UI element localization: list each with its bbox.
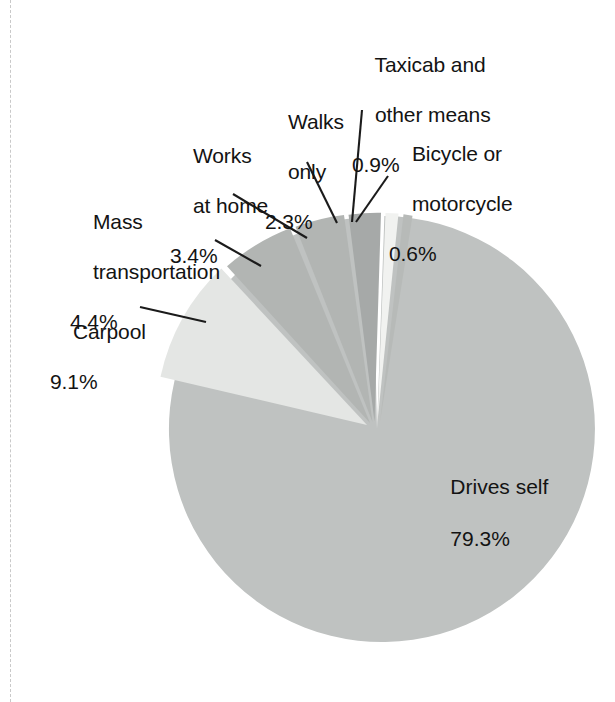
label-walks-value: 2.3% xyxy=(265,209,344,234)
pie-chart-figure: Taxicab and other means 0.9% Bicycle or … xyxy=(0,0,615,702)
label-mass-line1: Mass xyxy=(93,210,143,233)
label-carpool-value: 9.1% xyxy=(50,369,146,394)
label-walks-line1: Walks xyxy=(288,110,344,133)
label-drives-line1: Drives self xyxy=(450,475,548,498)
label-bicycle-motorcycle: Bicycle or motorcycle 0.6% xyxy=(389,116,512,316)
label-drives-value: 79.3% xyxy=(450,527,510,550)
label-carpool: Carpool 9.1% xyxy=(50,294,146,444)
label-works-line1: Works xyxy=(193,144,252,167)
label-mass-line2: transportation xyxy=(93,260,220,283)
label-bicycle-line1: Bicycle or xyxy=(412,142,502,165)
label-walks-line2: only xyxy=(288,160,326,183)
label-drives-self: Drives self 79.3% xyxy=(427,448,548,578)
label-walks-only: Walks only 2.3% xyxy=(265,84,344,284)
label-bicycle-value: 0.6% xyxy=(389,241,512,266)
label-taxicab-line1: Taxicab and xyxy=(375,53,486,76)
label-bicycle-line2: motorcycle xyxy=(412,192,513,215)
label-carpool-line1: Carpool xyxy=(73,320,146,343)
